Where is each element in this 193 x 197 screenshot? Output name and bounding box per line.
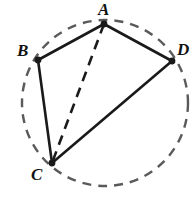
geometry-canvas [0, 0, 193, 197]
vertex-label-c: C [31, 166, 42, 183]
vertex-label-d: D [177, 41, 189, 58]
geometry-figure: A B C D [0, 0, 193, 197]
vertex-dot-a [101, 21, 108, 28]
segment-bc [38, 60, 52, 163]
vertex-dot-b [35, 57, 42, 64]
vertex-dot-d [169, 58, 176, 65]
vertex-label-b: B [17, 42, 28, 59]
vertex-label-a: A [98, 1, 109, 18]
circumscribed-circle [22, 20, 188, 186]
vertex-dot-c [49, 160, 56, 167]
